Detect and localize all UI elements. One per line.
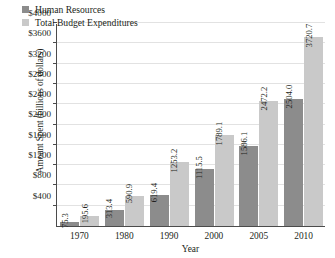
bars-layer: 75.3195.6313.4590.9619.41253.21115.51789… xyxy=(57,24,325,226)
y-tick-label: $3600 xyxy=(28,30,51,39)
bar-value-label: 1586.1 xyxy=(240,132,249,156)
bar-group: 1586.12472.2 xyxy=(236,24,281,226)
bar[interactable]: 75.3 xyxy=(60,222,79,226)
bar[interactable]: 313.4 xyxy=(105,210,124,226)
legend-item[interactable]: Total Budget Expenditures xyxy=(22,16,138,29)
x-axis-title: Year xyxy=(56,244,325,254)
y-tick-label: $400 xyxy=(33,192,51,201)
y-tick-label: $1600 xyxy=(28,131,51,140)
bar-value-label: 75.3 xyxy=(61,213,70,228)
bar[interactable]: 195.6 xyxy=(80,216,99,226)
bar-value-label: 3720.7 xyxy=(305,23,314,47)
bar-group: 2504.03720.7 xyxy=(281,24,326,226)
x-tick-label: 1980 xyxy=(115,231,134,241)
legend-item[interactable]: Human Resources xyxy=(22,3,138,16)
legend-label: Human Resources xyxy=(35,4,105,15)
bar-value-label: 2472.2 xyxy=(260,87,269,111)
x-tick-label: 2010 xyxy=(294,231,313,241)
bar-value-label: 1115.5 xyxy=(195,156,204,179)
bar-value-label: 2504.0 xyxy=(285,85,294,109)
bar[interactable]: 590.9 xyxy=(125,196,144,226)
bar-group: 75.3195.6 xyxy=(57,24,102,226)
bar-value-label: 1253.2 xyxy=(171,149,180,173)
y-tick-label: $2400 xyxy=(28,91,51,100)
bar-value-label: 619.4 xyxy=(151,183,160,202)
x-tick-label: 1990 xyxy=(160,231,179,241)
bar-chart: Amount Spent (billions of dollars) $400$… xyxy=(0,0,335,258)
legend-label: Total Budget Expenditures xyxy=(35,17,138,28)
x-tick-label: 2005 xyxy=(249,231,268,241)
plot-area: $400$800$1200$1600$2000$2400$2800$3200$3… xyxy=(56,24,325,227)
x-tick-label: 1970 xyxy=(70,231,89,241)
bar-value-label: 590.9 xyxy=(126,184,135,203)
y-tick-label: $1200 xyxy=(28,151,51,160)
bar[interactable]: 619.4 xyxy=(150,195,169,226)
bar-group: 619.41253.2 xyxy=(147,24,192,226)
x-tick-label: 2000 xyxy=(205,231,224,241)
bar[interactable]: 3720.7 xyxy=(304,37,323,226)
y-tick-label: $2800 xyxy=(28,70,51,79)
bar[interactable]: 1789.1 xyxy=(215,135,234,226)
bar[interactable]: 2504.0 xyxy=(284,99,303,226)
chart-legend: Human ResourcesTotal Budget Expenditures xyxy=(22,3,138,29)
y-tick-label: $2000 xyxy=(28,111,51,120)
bar[interactable]: 1115.5 xyxy=(195,169,214,226)
bar-group: 1115.51789.1 xyxy=(192,24,237,226)
bar[interactable]: 1253.2 xyxy=(170,162,189,226)
bar-group: 313.4590.9 xyxy=(102,24,147,226)
bar[interactable]: 1586.1 xyxy=(239,146,258,226)
bar-value-label: 1789.1 xyxy=(215,121,224,145)
y-tick-label: $3200 xyxy=(28,50,51,59)
legend-swatch xyxy=(22,6,29,13)
bar-value-label: 195.6 xyxy=(81,204,90,223)
legend-swatch xyxy=(22,19,29,26)
bar-value-label: 313.4 xyxy=(106,198,115,217)
bar[interactable]: 2472.2 xyxy=(259,101,278,226)
y-tick-label: $800 xyxy=(33,172,51,181)
